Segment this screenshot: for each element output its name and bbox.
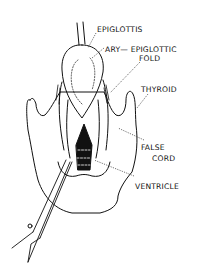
label-false: FALSE	[141, 143, 165, 152]
label-thyroid: THYROID	[141, 85, 177, 94]
larynx-diagram	[0, 0, 208, 273]
label-ventricle: VENTRICLE	[135, 182, 179, 191]
forceps	[12, 160, 72, 262]
epiglottis-stem	[77, 22, 85, 45]
epiglottis	[62, 45, 103, 118]
label-ary-epiglottic: ARY— EPIGLOTTIC	[105, 45, 177, 54]
label-cord: CORD	[152, 154, 175, 163]
label-epiglottis: EPIGLOTTIS	[97, 25, 143, 34]
label-fold: FOLD	[139, 54, 160, 63]
